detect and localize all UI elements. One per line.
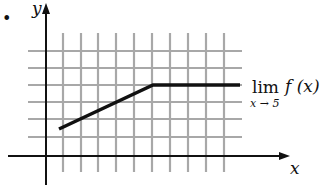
- grid: [28, 33, 242, 172]
- limit-subscript: x → 5: [250, 97, 279, 110]
- y-axis-arrow-icon: [42, 3, 50, 14]
- x-axis-arrow-icon: [279, 152, 290, 160]
- y-axis-label: y: [32, 0, 42, 18]
- graph-canvas: [0, 0, 332, 185]
- function-graph: [59, 85, 240, 129]
- axes: [8, 10, 282, 185]
- limit-lim: lim: [252, 77, 279, 97]
- x-axis-label: x: [290, 158, 300, 178]
- limit-function: f (x): [285, 76, 320, 96]
